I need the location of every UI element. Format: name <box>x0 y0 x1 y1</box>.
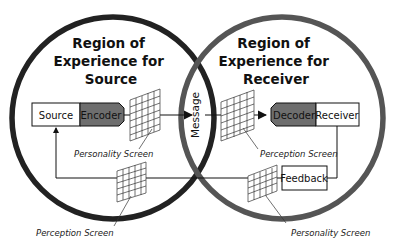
source-personality-screen-label: Personality Screen <box>74 149 153 159</box>
receiver-perception-pointer <box>243 128 258 149</box>
receiver-personality-screen-label: Personality Screen <box>291 228 370 238</box>
receiver-perception-screen-label: Perception Screen <box>260 149 338 159</box>
source-personality-screen-icon <box>130 89 160 141</box>
decoder-label: Decoder <box>273 110 316 121</box>
source-encoder-box: Source Encoder <box>32 103 124 126</box>
encoder-label: Encoder <box>81 110 123 121</box>
communication-model-diagram: Region of Experience for Source Region o… <box>0 0 394 251</box>
feedback-box: Feedback <box>280 166 328 190</box>
receiver-personality-screen-icon <box>248 165 277 202</box>
receiver-label: Receiver <box>315 110 359 121</box>
receiver-perception-screen-icon <box>221 90 254 141</box>
source-region-title: Region of Experience for Source <box>53 35 168 87</box>
feedback-label: Feedback <box>280 173 328 184</box>
receiver-region-title: Region of Experience for Receiver <box>218 35 333 87</box>
decoder-receiver-box: Decoder Receiver <box>271 103 360 126</box>
source-perception-screen-label: Perception Screen <box>36 228 114 238</box>
source-label: Source <box>39 110 73 121</box>
source-perception-screen-icon <box>117 162 146 202</box>
